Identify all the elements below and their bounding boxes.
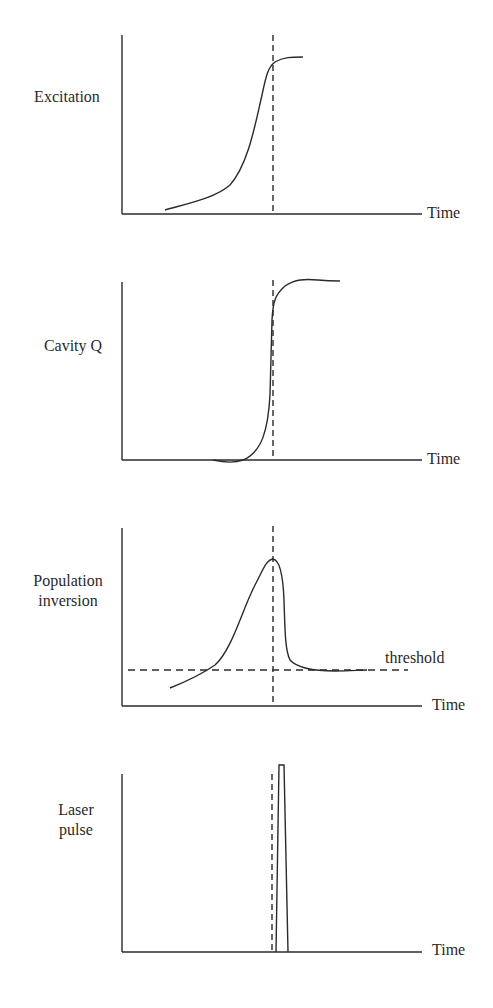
panel-laser-pulse	[122, 765, 422, 952]
excitation-curve	[165, 57, 303, 210]
xlabel-time-4: Time	[432, 940, 465, 960]
laser-pulse-shape	[276, 765, 288, 952]
population-inversion-curve	[170, 559, 367, 688]
panel-population-inversion	[122, 526, 422, 706]
ylabel-inversion: inversion	[20, 591, 116, 611]
q-switch-timing-diagram	[0, 0, 493, 1008]
ylabel-excitation: Excitation	[24, 87, 110, 107]
ylabel-population: Population	[20, 571, 116, 591]
ylabel-cavity-q: Cavity Q	[30, 336, 116, 356]
panel-excitation	[122, 35, 422, 214]
ylabel-laser: Laser	[40, 800, 112, 820]
ylabel-pulse: pulse	[40, 820, 112, 840]
xlabel-time-3: Time	[432, 695, 465, 715]
threshold-label: threshold	[385, 648, 445, 668]
xlabel-time-1: Time	[427, 203, 460, 223]
cavity-q-curve	[213, 280, 340, 462]
panel-cavity-q	[122, 280, 422, 462]
xlabel-time-2: Time	[427, 449, 460, 469]
